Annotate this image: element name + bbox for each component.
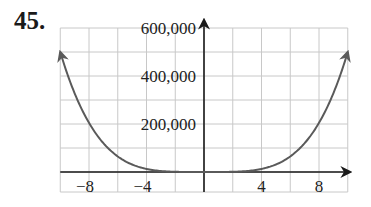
tick-labels: 200,000400,000600,000−8−448 [76, 19, 323, 196]
axes [60, 20, 350, 192]
x-tick-label: −8 [76, 177, 94, 196]
quartic-function-chart: 200,000400,000600,000−8−448 [0, 0, 371, 207]
x-tick-label: −4 [133, 177, 152, 196]
y-tick-label: 200,000 [141, 115, 196, 134]
x-tick-label: 4 [257, 177, 266, 196]
y-tick-label: 400,000 [141, 67, 196, 86]
x-tick-label: 8 [315, 177, 324, 196]
y-tick-label: 600,000 [141, 19, 196, 38]
